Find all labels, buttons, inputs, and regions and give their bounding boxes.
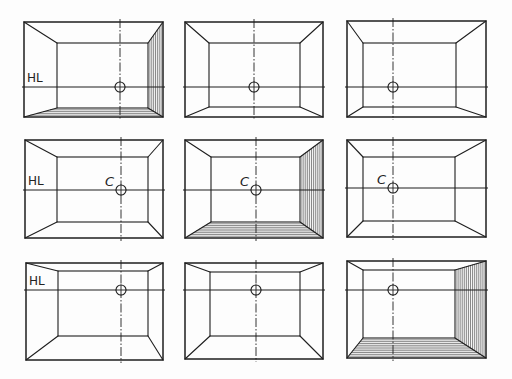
- outer-frame: [26, 263, 163, 360]
- room-frame-r1c2: [183, 19, 325, 120]
- outer-frame: [185, 263, 323, 359]
- horizon-label: HL: [29, 274, 45, 288]
- room-frame-r2c2: C: [183, 137, 325, 241]
- room-frame-r3c2: [183, 260, 325, 362]
- room-edges: [185, 263, 323, 359]
- outer-frame: [24, 22, 163, 117]
- back-wall: [58, 271, 148, 336]
- room-edges: [26, 263, 163, 360]
- floor-hatching: [31, 110, 160, 115]
- back-wall: [363, 270, 455, 338]
- room-frame-r1c1: HL: [22, 19, 165, 120]
- floor-hatching: [188, 224, 321, 236]
- room-edges: [24, 22, 163, 117]
- room-frame-r3c1: HL: [24, 260, 165, 363]
- back-wall: [363, 43, 456, 107]
- wall-hatching: [302, 141, 321, 236]
- room-edges: [347, 21, 486, 117]
- perspective-diagram: HLHLCCCHL One-point perspective room stu…: [0, 0, 512, 379]
- outer-frame: [347, 21, 486, 117]
- center-label: C: [105, 174, 115, 189]
- room-frame-r2c3: C: [345, 137, 488, 240]
- center-label: C: [240, 174, 250, 189]
- room-frame-r1c3: [345, 18, 488, 120]
- back-wall: [57, 43, 148, 108]
- back-wall: [363, 157, 455, 221]
- back-wall: [209, 43, 300, 107]
- outer-frame: [25, 140, 163, 238]
- room-frame-r2c1: HLC: [23, 137, 165, 241]
- room-edges: [25, 140, 163, 238]
- center-label: C: [377, 172, 387, 187]
- room-frame-r3c3: [345, 258, 488, 361]
- room-perspective-grid: HLHLCCCHL: [0, 0, 512, 379]
- horizon-label: HL: [27, 71, 43, 85]
- back-wall: [210, 272, 300, 336]
- horizon-label: HL: [28, 174, 44, 188]
